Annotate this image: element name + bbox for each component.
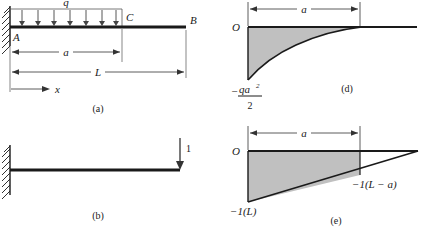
distributed-load-arrows [19,10,119,26]
load-intensity-label: q [63,0,69,8]
dimension-a-label: a [63,46,69,58]
node-label-b: B [190,14,197,26]
influence-value-right-label: −1(L − a) [352,178,397,191]
panel-d-moment-diagram: a O − qa 2 2 (d) [212,0,424,116]
panel-b-caption: (b) [92,210,104,222]
origin-label-d: O [232,21,240,33]
dimension-a-e: a [248,126,360,150]
moment-denominator-d: 2 [248,100,253,111]
dimension-a: a [12,46,120,58]
moment-value-label-d: − qa 2 2 [231,82,262,111]
panel-a-caption: (a) [92,103,103,115]
dimension-a-d: a [248,2,360,26]
panel-e-caption: (e) [330,215,341,227]
dimension-L: L [12,66,184,78]
panel-a-cantilever-distributed-load: q A C B a L [0,0,212,118]
moment-area-shading-d [248,27,360,80]
x-axis-arrow: x [11,83,60,95]
moment-exponent-d: 2 [256,82,260,90]
dimension-L-label: L [94,66,101,78]
distributed-load-box [10,9,122,26]
unit-point-load-arrow: 1 [176,138,191,170]
minus-sign-d: − [231,85,238,97]
influence-area-shading-e [248,151,360,202]
fixed-support-hatching-b [2,145,10,199]
panel-d-caption: (d) [341,83,353,95]
unit-load-label: 1 [186,143,191,154]
dimension-a-d-label: a [301,3,307,15]
origin-label-e: O [232,145,240,157]
dimension-a-e-label: a [301,127,307,139]
dimension-extension-lines [10,29,186,92]
influence-value-left-label: −1(L) [230,205,257,218]
fixed-support-hatching-a [2,6,10,54]
panel-b-unit-load-beam: 1 (b) [0,125,212,232]
moment-numerator-d: qa [239,83,251,95]
x-axis-label: x [54,83,60,95]
node-label-c: C [126,11,134,23]
node-label-a: A [12,31,20,43]
panel-e-influence-diagram: a O −1(L) −1(L − a) (e) [212,116,424,232]
